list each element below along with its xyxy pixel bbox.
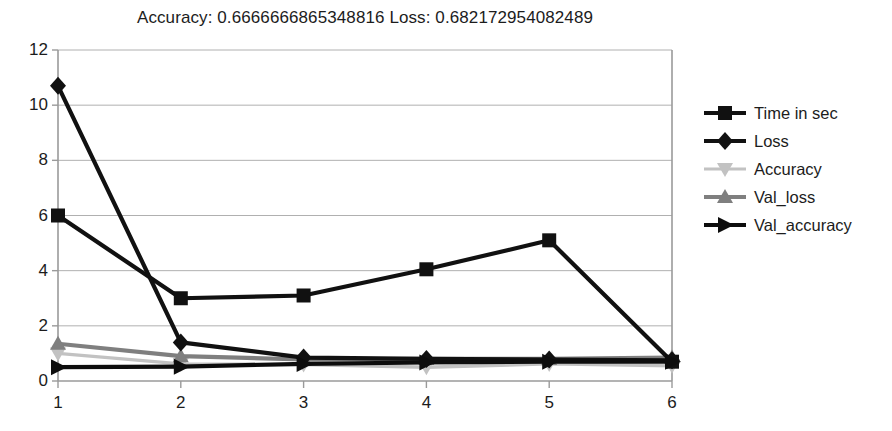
triangle-right-marker	[718, 217, 734, 233]
square-marker	[419, 262, 433, 276]
data-point-marker	[51, 209, 65, 223]
legend-item-val-accuracy[interactable]: Val_accuracy	[702, 211, 892, 239]
legend-marker-icon	[702, 102, 748, 124]
data-point-marker	[718, 217, 734, 233]
data-point-marker	[717, 132, 733, 150]
legend-item-loss[interactable]: Loss	[702, 127, 892, 155]
legend-key-svg	[702, 158, 748, 180]
x-axis-tick-label: 5	[534, 393, 564, 413]
legend-key-svg	[702, 102, 748, 124]
data-point-marker	[718, 106, 732, 120]
diamond-marker	[50, 77, 66, 95]
legend-item-label: Val_accuracy	[748, 216, 852, 235]
legend-item-time-in-sec[interactable]: Time in sec	[702, 99, 892, 127]
data-point-marker	[173, 333, 189, 351]
data-point-marker	[297, 288, 311, 302]
triangle-right-marker	[51, 359, 67, 375]
y-axis-tick-label: 12	[14, 40, 48, 60]
chart-legend: Time in secLossAccuracyVal_lossVal_accur…	[702, 99, 892, 239]
series-line	[58, 86, 672, 360]
square-marker	[174, 291, 188, 305]
plot-area: 024681012 123456	[0, 0, 700, 431]
legend-key-svg	[702, 214, 748, 236]
legend-marker-icon	[702, 130, 748, 152]
legend-key-svg	[702, 186, 748, 208]
legend-item-label: Loss	[748, 132, 789, 151]
series-line	[58, 216, 672, 362]
y-axis-tick-label: 4	[14, 261, 48, 281]
legend-marker-icon	[702, 214, 748, 236]
x-axis-tick-label: 3	[289, 393, 319, 413]
y-axis-tick-label: 6	[14, 206, 48, 226]
square-marker	[297, 288, 311, 302]
legend-item-val-loss[interactable]: Val_loss	[702, 183, 892, 211]
y-axis-tick-label: 2	[14, 316, 48, 336]
square-marker	[718, 106, 732, 120]
y-axis-tick-label: 10	[14, 95, 48, 115]
y-axis-tick-label: 0	[14, 371, 48, 391]
legend-marker-icon	[702, 158, 748, 180]
legend-item-accuracy[interactable]: Accuracy	[702, 155, 892, 183]
series-time-in-sec	[51, 209, 679, 369]
plot-svg	[0, 0, 700, 431]
square-marker	[542, 233, 556, 247]
x-axis-tick-label: 4	[411, 393, 441, 413]
data-point-marker	[542, 233, 556, 247]
legend-item-label: Time in sec	[748, 104, 838, 123]
legend-item-label: Val_loss	[748, 188, 815, 207]
legend-item-label: Accuracy	[748, 160, 822, 179]
data-point-marker	[419, 262, 433, 276]
y-axis-tick-label: 8	[14, 150, 48, 170]
diamond-marker	[173, 333, 189, 351]
data-point-marker	[51, 359, 67, 375]
x-axis-tick-label: 6	[657, 393, 687, 413]
legend-marker-icon	[702, 186, 748, 208]
x-axis-tick-label: 2	[166, 393, 196, 413]
chart-container: Accuracy: 0.6666666865348816 Loss: 0.682…	[0, 0, 892, 431]
x-axis-tick-label: 1	[43, 393, 73, 413]
data-point-marker	[174, 291, 188, 305]
square-marker	[51, 209, 65, 223]
legend-key-svg	[702, 130, 748, 152]
diamond-marker	[717, 132, 733, 150]
data-point-marker	[50, 77, 66, 95]
